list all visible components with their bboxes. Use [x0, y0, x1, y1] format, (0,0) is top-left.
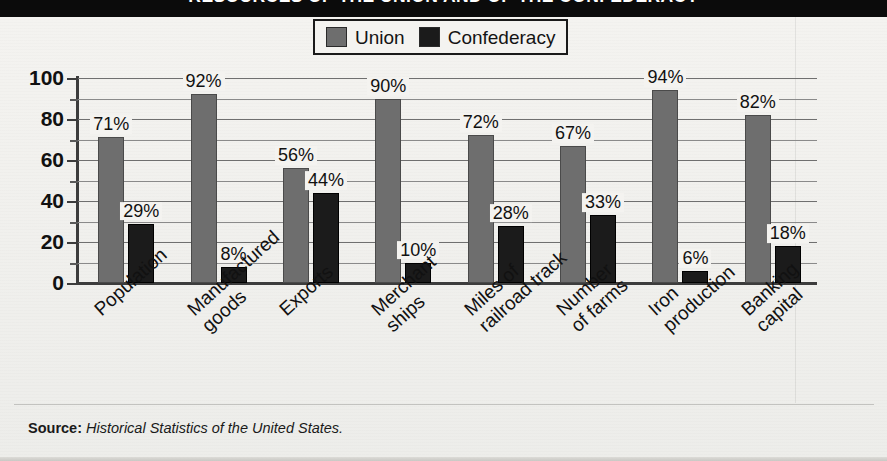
legend-swatch-union [326, 27, 347, 47]
bar-value-label: 33% [582, 193, 624, 212]
bar-value-label: 28% [490, 204, 532, 223]
bar-value-label: 90% [367, 77, 409, 96]
gridline-minor [78, 99, 817, 100]
bar-union [745, 115, 771, 283]
bar-value-label: 18% [767, 224, 809, 243]
legend-label-confederacy: Confederacy [448, 28, 556, 47]
source-prefix: Source: [28, 420, 82, 436]
y-tick-major [67, 242, 78, 244]
gridline-minor [78, 140, 817, 141]
chart-figure: RESOURCES OF THE UNION AND OF THE CONFED… [0, 0, 887, 461]
y-tick-major [67, 283, 78, 285]
gridline-major [78, 242, 817, 243]
y-tick-minor [70, 181, 78, 183]
source-note: Source: Historical Statistics of the Uni… [28, 420, 343, 436]
source-divider [14, 404, 874, 405]
gridline-major [78, 119, 817, 120]
x-axis-category-labels: PopulationManufacturedgoodsExportsMercha… [0, 290, 887, 400]
y-tick-major [67, 119, 78, 121]
y-tick-label: 80 [41, 107, 64, 131]
legend-label-union: Union [355, 28, 405, 47]
gridline-major [78, 160, 817, 161]
bar-value-label: 71% [90, 116, 132, 135]
gridline-minor [78, 181, 817, 182]
bar-union [191, 94, 217, 283]
source-text: Historical Statistics of the United Stat… [86, 420, 343, 436]
chart-title-bar: RESOURCES OF THE UNION AND OF THE CONFED… [0, 0, 887, 17]
page-bottom-edge [0, 457, 887, 461]
bar-value-label: 92% [183, 73, 225, 92]
page-title: RESOURCES OF THE UNION AND OF THE CONFED… [0, 0, 887, 7]
bar-value-label: 29% [120, 202, 162, 221]
gridline-minor [78, 222, 817, 223]
y-tick-major [67, 160, 78, 162]
y-tick-minor [70, 99, 78, 101]
y-tick-label: 40 [41, 189, 64, 213]
bar-value-label: 67% [552, 124, 594, 143]
bar-value-label: 44% [305, 171, 347, 190]
y-tick-minor [70, 222, 78, 224]
legend-item-union: Union [326, 27, 405, 47]
legend-item-confederacy: Confederacy [419, 27, 556, 47]
y-tick-major [67, 201, 78, 203]
y-tick-label: 20 [41, 230, 64, 254]
chart-legend: Union Confederacy [313, 19, 568, 55]
bar-union [652, 90, 678, 283]
y-tick-minor [70, 263, 78, 265]
legend-swatch-confederacy [419, 27, 440, 47]
bar-value-label: 72% [460, 114, 502, 133]
bar-value-label: 94% [644, 68, 686, 87]
y-tick-minor [70, 140, 78, 142]
y-tick-major [67, 78, 78, 80]
y-tick-label: 60 [41, 148, 64, 172]
bar-value-label: 82% [737, 93, 779, 112]
gridline-major [78, 201, 817, 202]
bar-value-label: 56% [275, 146, 317, 165]
y-tick-label: 100 [29, 66, 64, 90]
